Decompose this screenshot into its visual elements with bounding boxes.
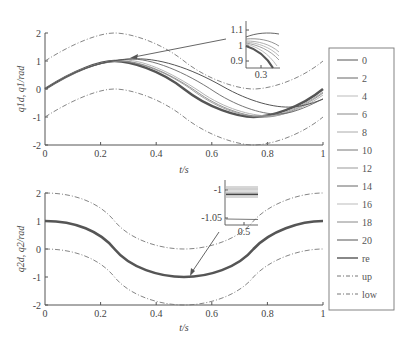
top-ytick-0: 0 bbox=[36, 84, 41, 95]
svg-text:re: re bbox=[362, 253, 370, 264]
top-xtick-0: 0 bbox=[43, 148, 48, 159]
bottom-xtick-1: 1 bbox=[321, 308, 326, 319]
top-xtick-06: 0.6 bbox=[206, 148, 219, 159]
top-inset-ytick-09: 0.9 bbox=[231, 55, 244, 66]
bottom-inset-ytick-m1: -1 bbox=[214, 184, 222, 195]
bottom-ytick-m2: -2 bbox=[33, 300, 41, 311]
legend: 0 2 4 6 8 10 12 14 16 18 20 re up low bbox=[329, 48, 394, 310]
top-arrowhead-icon bbox=[130, 54, 138, 59]
top-inset-ytick-11: 1.1 bbox=[231, 24, 244, 35]
bottom-ylabel: q2d, q2/rad bbox=[15, 225, 26, 273]
svg-text:12: 12 bbox=[362, 163, 372, 174]
svg-text:10: 10 bbox=[362, 145, 372, 156]
bottom-plot: 2 1 0 -1 -2 0 0.2 0.4 0.6 0.8 1 t/s q2d,… bbox=[15, 180, 326, 333]
bottom-xtick-0: 0 bbox=[43, 308, 48, 319]
top-xlabel: t/s bbox=[179, 164, 189, 175]
bottom-xtick-06: 0.6 bbox=[206, 308, 219, 319]
bottom-xtick-02: 0.2 bbox=[94, 308, 107, 319]
top-xtick-1: 1 bbox=[321, 148, 326, 159]
top-ytick-m2: -2 bbox=[33, 140, 41, 151]
svg-text:low: low bbox=[362, 289, 378, 300]
top-ytick-1: 1 bbox=[36, 56, 41, 67]
svg-text:14: 14 bbox=[362, 181, 372, 192]
svg-text:16: 16 bbox=[362, 199, 372, 210]
top-ytick-2: 2 bbox=[36, 28, 41, 39]
top-xtick-04: 0.4 bbox=[150, 148, 163, 159]
top-xtick-02: 0.2 bbox=[94, 148, 107, 159]
top-up-bound bbox=[45, 33, 323, 89]
bottom-ytick-0: 0 bbox=[36, 244, 41, 255]
top-curve-re bbox=[45, 61, 323, 117]
top-low-bound bbox=[45, 89, 323, 145]
svg-text:0: 0 bbox=[362, 55, 367, 66]
top-inset-ytick-1: 1 bbox=[238, 40, 243, 51]
top-xtick-08: 0.8 bbox=[261, 148, 274, 159]
top-annotation-arrow bbox=[134, 39, 226, 57]
figure: 2 1 0 -1 -2 0 0.2 0.4 0.6 0.8 1 t/s q1d,… bbox=[0, 0, 396, 345]
svg-text:6: 6 bbox=[362, 109, 367, 120]
top-ylabel: q1d, q1/rad bbox=[15, 65, 26, 113]
top-ytick-m1: -1 bbox=[33, 112, 41, 123]
bottom-inset: -1 -1.05 0.5 bbox=[201, 180, 258, 237]
bottom-ytick-1: 1 bbox=[36, 216, 41, 227]
bottom-annotation-arrow bbox=[192, 232, 219, 272]
svg-text:8: 8 bbox=[362, 127, 367, 138]
svg-text:up: up bbox=[362, 271, 372, 282]
bottom-ytick-2: 2 bbox=[36, 188, 41, 199]
bottom-ytick-m1: -1 bbox=[33, 272, 41, 283]
svg-text:4: 4 bbox=[362, 91, 367, 102]
bottom-up-bound bbox=[45, 193, 323, 249]
bottom-inset-xtick-05: 0.5 bbox=[238, 226, 251, 237]
top-inset-xtick-03: 0.3 bbox=[255, 69, 268, 80]
bottom-xtick-04: 0.4 bbox=[150, 308, 163, 319]
top-inset: 1.1 1 0.9 0.3 bbox=[231, 21, 281, 80]
svg-text:20: 20 bbox=[362, 235, 372, 246]
svg-text:18: 18 bbox=[362, 217, 372, 228]
svg-text:2: 2 bbox=[362, 73, 367, 84]
bottom-inset-ytick-m105: -1.05 bbox=[201, 212, 222, 223]
bottom-xlabel: t/s bbox=[179, 322, 189, 333]
bottom-xtick-08: 0.8 bbox=[261, 308, 274, 319]
top-plot: 2 1 0 -1 -2 0 0.2 0.4 0.6 0.8 1 t/s q1d,… bbox=[15, 21, 326, 175]
